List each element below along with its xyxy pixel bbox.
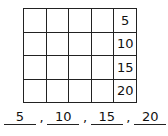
grid-cell [69,33,92,57]
grid-cell-value: 5 [114,9,137,33]
separator: , [79,111,91,125]
answer-blank: 10 [47,110,79,125]
grid-cell-value: 15 [114,56,137,80]
grid-cell [92,56,115,80]
grid-cell [24,33,47,57]
answer-blank: 20 [134,110,166,125]
grid-cell [92,9,115,33]
grid-cell [24,80,47,104]
answer-sequence: 5 , 10 , 15 , 20 [4,110,166,125]
grid-cell [24,9,47,33]
grid-cell [47,56,70,80]
grid-cell [69,9,92,33]
answer-blank: 15 [91,110,123,125]
grid-cell [69,80,92,104]
answer-blank: 5 [4,110,36,125]
grid-cell-value: 20 [114,80,137,104]
grid-cell [24,56,47,80]
grid-cell-value: 10 [114,33,137,57]
separator: , [123,111,135,125]
multiplication-grid: 5 10 15 20 [23,8,137,103]
grid-cell [69,56,92,80]
separator: , [36,111,48,125]
grid-cell [47,33,70,57]
grid-cell [47,80,70,104]
grid-cell [92,80,115,104]
grid-cell [47,9,70,33]
grid-cell [92,33,115,57]
